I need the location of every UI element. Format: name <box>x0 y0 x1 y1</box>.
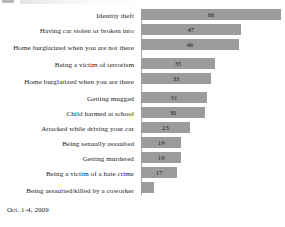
bar-row: Getting mugged31 <box>0 92 285 107</box>
bar: 30 <box>141 107 205 118</box>
bar <box>141 182 154 193</box>
bar-row: Home burglarized when you are there33 <box>0 73 285 92</box>
bar-row: Being a victim of terrorism35 <box>0 58 285 73</box>
bar-value-label: 35 <box>175 60 182 67</box>
bar-value-label: 66 <box>208 11 215 18</box>
clipped-title-strip <box>0 0 285 8</box>
footnote-date: Oct. 1-4, 2009 <box>7 205 49 214</box>
bar-value-label: 19 <box>158 154 165 161</box>
bar-rows: Identity theft66Having car stolen or bro… <box>0 9 285 201</box>
bar-track: 30 <box>138 107 285 122</box>
bar-row: Child harmed at school30 <box>0 107 285 122</box>
bar: 23 <box>141 122 190 133</box>
bar-row: Being a victim of a hate crime17 <box>0 167 285 182</box>
bar-category-label: Home burglarized when you are not there <box>0 44 138 52</box>
bar-value-label: 33 <box>173 75 180 82</box>
bar-row: Home burglarized when you are not there4… <box>0 39 285 58</box>
bar-value-label: 30 <box>170 109 177 116</box>
bar-track <box>138 182 285 201</box>
bar-category-label: Identity theft <box>0 12 138 20</box>
bar-row: Identity theft66 <box>0 9 285 24</box>
bar: 33 <box>141 73 211 84</box>
bar-track: 35 <box>138 58 285 73</box>
bar-category-label: Getting mugged <box>0 95 138 103</box>
bar: 66 <box>141 9 281 20</box>
bar-value-label: 23 <box>162 124 169 131</box>
clipped-logo-mark <box>2 0 14 3</box>
bar: 35 <box>141 58 215 69</box>
bar-track: 19 <box>138 152 285 167</box>
bar-row: Having car stolen or broken into47 <box>0 24 285 39</box>
bar: 19 <box>141 137 181 148</box>
bar-chart: Identity theft66Having car stolen or bro… <box>0 0 285 227</box>
bar-track: 23 <box>138 122 285 137</box>
bar-track: 19 <box>138 137 285 152</box>
bar-track: 33 <box>138 73 285 92</box>
bar-category-label: Being sexually assaulted <box>0 140 138 148</box>
bar-category-label: Child harmed at school <box>0 110 138 118</box>
bar-category-label: Home burglarized when you are there <box>0 78 138 86</box>
bar-value-label: 19 <box>158 139 165 146</box>
bar-category-label: Getting murdered <box>0 155 138 163</box>
bar: 46 <box>141 39 239 50</box>
bar-category-label: Attacked while driving your car <box>0 125 138 133</box>
bar: 47 <box>141 24 241 35</box>
bar: 31 <box>141 92 207 103</box>
bar-category-label: Being a victim of a hate crime <box>0 170 138 178</box>
bar-category-label: Being a victim of terrorism <box>0 61 138 69</box>
bar: 19 <box>141 152 181 163</box>
bar-category-label: Having car stolen or broken into <box>0 27 138 35</box>
bar-track: 17 <box>138 167 285 182</box>
bar-track: 46 <box>138 39 285 58</box>
bar-value-label: 17 <box>156 169 163 176</box>
bar-row: Being sexually assaulted19 <box>0 137 285 152</box>
bar-track: 47 <box>138 24 285 39</box>
plot-area: Identity theft66Having car stolen or bro… <box>0 9 285 199</box>
bar: 17 <box>141 167 177 178</box>
bar-value-label: 47 <box>188 26 195 33</box>
clipped-title-text <box>20 0 170 4</box>
bar-value-label: 46 <box>186 41 193 48</box>
bar-row: Attacked while driving your car23 <box>0 122 285 137</box>
bar-track: 31 <box>138 92 285 107</box>
bar-category-label: Being assaulted/killed by a coworker <box>0 187 138 195</box>
bar-value-label: 31 <box>171 94 178 101</box>
bar-track: 66 <box>138 9 285 24</box>
bar-row: Being assaulted/killed by a coworker <box>0 182 285 201</box>
bar-row: Getting murdered19 <box>0 152 285 167</box>
